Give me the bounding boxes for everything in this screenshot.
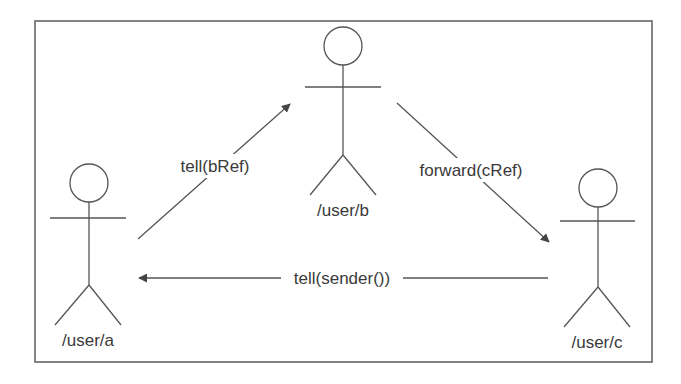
message-c-to-a: tell(sender()) <box>139 265 548 289</box>
actor-head-icon <box>579 169 617 207</box>
message-label: tell(bRef) <box>181 157 250 176</box>
message-a-to-b: tell(bRef) <box>138 104 290 239</box>
message-label: forward(cRef) <box>420 161 523 180</box>
actor-label-b: /user/b <box>317 201 369 220</box>
actor-head-icon <box>70 164 108 202</box>
actor-leg-right <box>598 287 630 327</box>
actor-label-c: /user/c <box>571 333 623 352</box>
actor-leg-right <box>343 155 376 195</box>
message-label: tell(sender()) <box>294 269 390 288</box>
actor-leg-left <box>564 287 598 327</box>
actor-leg-right <box>89 285 121 325</box>
actor-label-a: /user/a <box>62 331 115 350</box>
message-b-to-c: forward(cRef) <box>397 103 549 242</box>
actor-user-b: /user/b <box>305 27 381 220</box>
actor-head-icon <box>324 27 362 65</box>
actor-leg-left <box>310 155 343 195</box>
actor-user-c: /user/c <box>560 169 635 352</box>
actor-user-a: /user/a <box>50 164 126 350</box>
actor-leg-left <box>55 285 89 325</box>
actor-diagram: /user/a /user/b /user/c tell(bRef) forwa… <box>0 0 681 384</box>
